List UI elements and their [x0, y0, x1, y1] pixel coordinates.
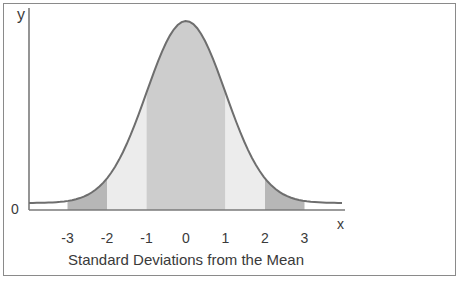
x-tick-label: 1 [222, 230, 230, 246]
y-origin-label: 0 [11, 202, 19, 216]
x-tick-label: -2 [101, 230, 113, 246]
shaded-region [147, 21, 226, 210]
x-axis-title: Standard Deviations from the Mean [0, 251, 372, 268]
y-axis-letter: y [17, 7, 25, 23]
x-tick-label: 3 [301, 230, 309, 246]
x-axis-letter: x [337, 217, 344, 231]
x-tick-label: 2 [261, 230, 269, 246]
x-tick-label: 0 [182, 230, 190, 246]
x-tick-label: -3 [61, 230, 73, 246]
x-tick-label: -1 [140, 230, 152, 246]
